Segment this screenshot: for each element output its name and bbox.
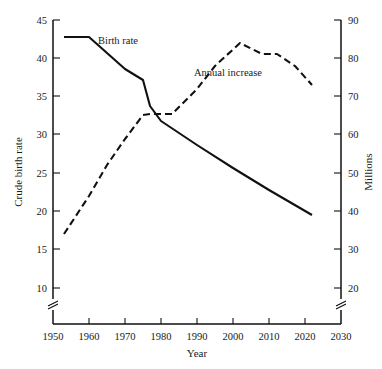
left-tick-label: 30 (37, 129, 48, 140)
right-tick-label: 30 (348, 244, 359, 255)
x-tick-label: 2010 (259, 331, 280, 342)
y2-axis-title: Millions (362, 153, 374, 190)
annotation-birth-rate: Birth rate (98, 35, 138, 46)
right-tick-label: 40 (348, 206, 359, 217)
x-tick-label: 1970 (115, 331, 136, 342)
left-axis-ticks (53, 20, 60, 288)
line-chart: 45 40 35 30 25 20 15 10 90 80 70 60 50 4 (0, 0, 382, 369)
right-tick-label: 90 (348, 15, 359, 26)
left-tick-label: 10 (37, 283, 48, 294)
x-tick-label: 1950 (43, 331, 64, 342)
x-tick-label: 1980 (151, 331, 172, 342)
left-tick-label: 35 (37, 91, 48, 102)
x-tick-label: 1990 (187, 331, 208, 342)
right-axis-break-icon (336, 301, 346, 309)
left-axis-break-icon (48, 301, 58, 309)
left-tick-label: 15 (37, 244, 48, 255)
x-tick-label: 2030 (331, 331, 352, 342)
right-tick-label: 50 (348, 168, 359, 179)
left-axis-tick-labels: 45 40 35 30 25 20 15 10 (37, 15, 48, 294)
y-axis-title: Crude birth rate (12, 137, 24, 207)
x-axis-title: Year (187, 347, 208, 359)
x-tick-label: 2020 (295, 331, 316, 342)
x-axis-ticks (89, 318, 305, 324)
right-axis-ticks (334, 20, 341, 288)
left-tick-label: 40 (37, 53, 48, 64)
right-tick-label: 20 (348, 283, 359, 294)
x-tick-label: 2000 (223, 331, 244, 342)
chart-container: 45 40 35 30 25 20 15 10 90 80 70 60 50 4 (0, 0, 382, 369)
left-tick-label: 25 (37, 168, 48, 179)
left-tick-label: 20 (37, 206, 48, 217)
right-tick-label: 70 (348, 91, 359, 102)
x-axis-tick-labels: 1950 1960 1970 1980 1990 2000 2010 2020 … (43, 331, 352, 342)
x-tick-label: 1960 (79, 331, 100, 342)
right-tick-label: 60 (348, 129, 359, 140)
right-tick-label: 80 (348, 53, 359, 64)
annotation-annual-increase: Annual increase (194, 67, 262, 78)
left-tick-label: 45 (37, 15, 48, 26)
right-axis-tick-labels: 90 80 70 60 50 40 30 20 (348, 15, 359, 294)
series-line-birth-rate (64, 37, 312, 215)
